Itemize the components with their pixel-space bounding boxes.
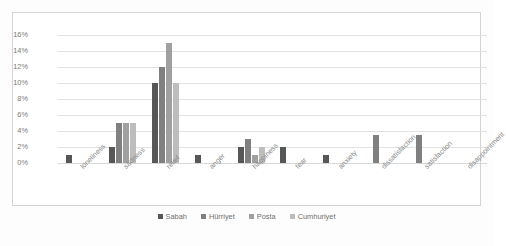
bar-group <box>58 35 101 163</box>
bar-group <box>101 35 144 163</box>
bar-group <box>315 35 358 163</box>
bar <box>166 43 172 163</box>
bar <box>116 123 122 163</box>
bar-group <box>273 35 316 163</box>
bar <box>173 83 179 163</box>
legend-item[interactable]: Hürriyet <box>201 212 235 221</box>
y-axis-tick-label: 2% <box>0 143 28 151</box>
legend-label: Hürriyet <box>209 212 235 221</box>
bar <box>373 135 379 163</box>
bar-group <box>358 35 401 163</box>
y-axis-tick-label: 8% <box>0 95 28 103</box>
bar <box>280 147 286 163</box>
legend-swatch-icon <box>290 214 295 219</box>
legend-swatch-icon <box>249 214 254 219</box>
bar <box>323 155 329 163</box>
chart-frame: 16%14%12%10%8%6%4%2%0% lonelinesssadness… <box>12 12 481 206</box>
legend-swatch-icon <box>158 214 163 219</box>
legend-swatch-icon <box>201 214 206 219</box>
legend-label: Sabah <box>166 212 187 221</box>
bar-group <box>144 35 187 163</box>
bar-group <box>230 35 273 163</box>
legend-item[interactable]: Posta <box>249 212 276 221</box>
y-axis-tick-label: 6% <box>0 111 28 119</box>
legend-item[interactable]: Cumhuriyet <box>290 212 336 221</box>
chart-legend: SabahHürriyetPostaCumhuriyet <box>0 212 493 221</box>
y-axis-tick-label: 10% <box>0 79 28 87</box>
legend-label: Posta <box>257 212 276 221</box>
y-axis-tick-label: 4% <box>0 127 28 135</box>
y-axis-tick-label: 16% <box>0 31 28 39</box>
y-axis-tick-label: 12% <box>0 63 28 71</box>
legend-label: Cumhuriyet <box>298 212 336 221</box>
bar <box>238 147 244 163</box>
bar <box>66 155 72 163</box>
bar <box>245 139 251 163</box>
bar <box>109 147 115 163</box>
bar-group <box>187 35 230 163</box>
bar <box>195 155 201 163</box>
legend-item[interactable]: Sabah <box>158 212 187 221</box>
bar <box>152 83 158 163</box>
bar <box>159 67 165 163</box>
y-axis-tick-label: 0% <box>0 159 28 167</box>
y-axis-tick-label: 14% <box>0 47 28 55</box>
